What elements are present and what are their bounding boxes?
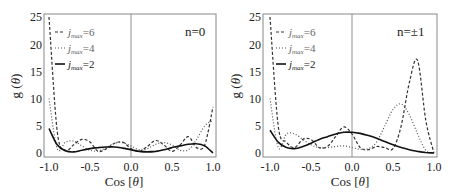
svg-text:20: 20 <box>30 38 42 52</box>
panel-n1: -1.0 -0.5 0.0 0.5 1.0 0 5 10 15 20 25 Co… <box>228 10 442 189</box>
svg-text:1.0: 1.0 <box>427 160 442 174</box>
svg-text:15: 15 <box>30 65 42 79</box>
svg-text:25: 25 <box>30 10 42 24</box>
y-tick-labels: 0 5 10 15 20 25 <box>30 10 42 160</box>
panel-label: n=0 <box>185 24 205 39</box>
x-tick-labels: -1.0 -0.5 0.0 0.5 1.0 <box>261 160 442 174</box>
svg-text:5: 5 <box>255 119 261 133</box>
svg-text:-1.0: -1.0 <box>261 160 280 174</box>
x-axis-label: Cos [θ] <box>331 174 370 189</box>
x-axis-label: Cos [θ] <box>105 174 144 189</box>
panel-n0: -1.0 -0.5 0.0 0.5 1.0 0 5 10 15 20 25 Co… <box>8 10 221 189</box>
x-tick-labels: -1.0 -0.5 0.0 0.5 1.0 <box>40 160 221 174</box>
svg-text:jmax=6: jmax=6 <box>66 26 95 40</box>
figure: -1.0 -0.5 0.0 0.5 1.0 0 5 10 15 20 25 Co… <box>0 0 455 195</box>
panel-label: n=±1 <box>397 24 424 39</box>
svg-text:-0.5: -0.5 <box>81 160 100 174</box>
svg-text:0.0: 0.0 <box>345 160 360 174</box>
svg-text:-0.5: -0.5 <box>302 160 321 174</box>
svg-text:jmax=4: jmax=4 <box>287 42 316 56</box>
y-axis-label: g (θ) <box>8 74 23 99</box>
svg-text:10: 10 <box>30 92 42 106</box>
y-axis-label: g (θ) <box>228 74 243 99</box>
y-tick-labels: 0 5 10 15 20 25 <box>249 10 261 160</box>
svg-text:20: 20 <box>249 38 261 52</box>
svg-text:5: 5 <box>36 119 42 133</box>
svg-text:0: 0 <box>36 146 42 160</box>
svg-text:-1.0: -1.0 <box>40 160 59 174</box>
legend: jmax=6 jmax=4 jmax=2 <box>276 26 316 72</box>
svg-text:jmax=6: jmax=6 <box>287 26 316 40</box>
svg-text:25: 25 <box>249 10 261 24</box>
svg-text:10: 10 <box>249 92 261 106</box>
svg-text:0.0: 0.0 <box>124 160 139 174</box>
svg-text:0: 0 <box>255 146 261 160</box>
svg-text:jmax=2: jmax=2 <box>287 58 315 72</box>
legend: jmax=6 jmax=4 jmax=2 <box>55 26 95 72</box>
svg-text:15: 15 <box>249 65 261 79</box>
svg-text:jmax=2: jmax=2 <box>66 58 94 72</box>
svg-text:jmax=4: jmax=4 <box>66 42 95 56</box>
svg-text:1.0: 1.0 <box>206 160 221 174</box>
svg-text:0.5: 0.5 <box>165 160 180 174</box>
svg-text:0.5: 0.5 <box>386 160 401 174</box>
